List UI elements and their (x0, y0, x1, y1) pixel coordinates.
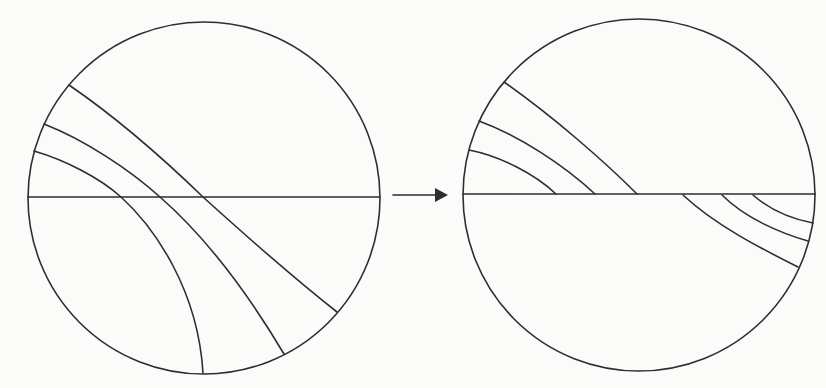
curve-a-after (504, 82, 637, 194)
circle-after (463, 19, 815, 371)
curve-f-after (753, 195, 813, 223)
curve-c-after (469, 150, 556, 194)
panel-after (463, 19, 815, 371)
diagram-svg (0, 0, 826, 388)
curve-b-before (44, 124, 284, 354)
arrow-right-icon (393, 188, 448, 202)
curve-c-before (34, 151, 203, 373)
curve-a-before (69, 85, 337, 312)
panel-before (28, 22, 380, 374)
diagram-stage (0, 0, 826, 388)
